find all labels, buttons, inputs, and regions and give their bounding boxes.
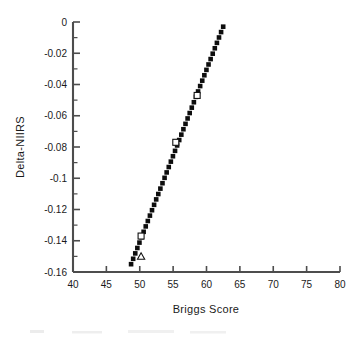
trend-dot: [162, 176, 167, 181]
data-marker-square-2: [173, 139, 179, 145]
trend-dot: [187, 111, 192, 116]
trend-dot: [213, 46, 218, 51]
trend-dot: [217, 35, 222, 40]
trend-dot: [143, 224, 148, 229]
trend-dot: [152, 203, 157, 208]
trend-dot: [221, 24, 226, 29]
x-tick-label-50: 50: [134, 279, 146, 290]
trend-dot: [206, 62, 211, 67]
trend-dot: [129, 262, 134, 267]
y-tick-label-4: -0.08: [44, 142, 67, 153]
y-tick-label-3: -0.06: [44, 110, 67, 121]
trend-dot: [189, 105, 194, 110]
y-tick-label-5: -0.1: [50, 173, 68, 184]
y-tick-label-8: -0.16: [44, 267, 67, 278]
trend-dot: [183, 122, 188, 127]
x-tick-label-60: 60: [201, 279, 213, 290]
x-tick-label-65: 65: [234, 279, 246, 290]
trend-dot: [171, 154, 176, 159]
trend-dot: [185, 116, 190, 121]
y-tick-label-0: 0: [61, 17, 67, 28]
data-marker-square-3: [194, 92, 200, 98]
trend-dot: [173, 149, 178, 154]
scatter-plot: 404550556065707580 0-0.02-0.04-0.06-0.08…: [0, 0, 358, 340]
x-tick-label-40: 40: [67, 279, 79, 290]
trend-dot: [215, 41, 220, 46]
trend-dot: [198, 84, 203, 89]
trend-dot: [204, 68, 209, 73]
trend-dot: [202, 73, 207, 78]
x-tick-label-45: 45: [101, 279, 113, 290]
trend-dot: [158, 186, 163, 191]
trend-dot: [133, 251, 138, 256]
trend-dot: [164, 170, 169, 175]
y-tick-label-2: -0.04: [44, 79, 67, 90]
trend-dot: [137, 240, 142, 245]
y-axis-title: Delta-NIIRS: [14, 116, 26, 178]
x-tick-label-55: 55: [168, 279, 180, 290]
trend-dot: [146, 219, 151, 224]
trend-dot: [219, 30, 224, 35]
trend-dot: [150, 208, 155, 213]
trend-dot: [135, 246, 140, 251]
trend-dot: [181, 127, 186, 132]
chart-figure: 404550556065707580 0-0.02-0.04-0.06-0.08…: [0, 0, 358, 340]
trend-dot: [160, 181, 165, 186]
x-tick-label-70: 70: [268, 279, 280, 290]
trend-dot: [154, 197, 159, 202]
trend-dot: [148, 213, 153, 218]
trend-dot: [166, 165, 171, 170]
data-marker-square-0: [138, 233, 144, 239]
x-axis-title: Briggs Score: [173, 303, 240, 315]
trend-dot: [200, 78, 205, 83]
trend-dot: [156, 192, 161, 197]
trend-dot: [192, 100, 197, 105]
y-axis-tick-labels: 0-0.02-0.04-0.06-0.08-0.1-0.12-0.14-0.16: [44, 17, 67, 278]
x-tick-label-75: 75: [301, 279, 313, 290]
x-axis-tick-labels: 404550556065707580: [67, 279, 346, 290]
x-tick-label-80: 80: [334, 279, 346, 290]
trend-dot: [210, 51, 215, 56]
trend-dot: [169, 159, 174, 164]
y-tick-label-6: -0.12: [44, 204, 67, 215]
trend-dot: [131, 256, 136, 261]
trend-dot: [179, 132, 184, 137]
trend-dot: [208, 57, 213, 62]
y-tick-label-1: -0.02: [44, 48, 67, 59]
y-tick-label-7: -0.14: [44, 235, 67, 246]
